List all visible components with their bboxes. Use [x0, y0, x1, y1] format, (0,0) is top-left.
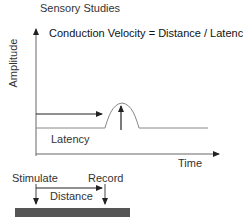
diagram-graphics	[0, 0, 243, 224]
nerve-bar	[15, 208, 130, 217]
signal-trace	[36, 103, 208, 128]
